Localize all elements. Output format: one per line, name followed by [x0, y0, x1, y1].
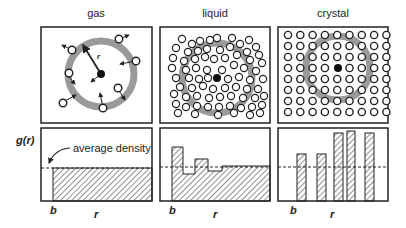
- liquid-particle-panel: [160, 27, 270, 123]
- r-label-liquid: r: [213, 208, 218, 220]
- reference-particle-icon: [213, 74, 221, 82]
- b-label-liquid: b: [169, 204, 176, 216]
- panel-title-gas: gas: [87, 7, 105, 19]
- b-label-crystal: b: [290, 204, 297, 216]
- peak-bar: [317, 154, 326, 201]
- y-axis-label: g(r): [15, 134, 35, 146]
- reference-particle-icon: [97, 70, 105, 78]
- panel-title-liquid: liquid: [202, 7, 228, 19]
- gas-rdf-chart: average density: [41, 128, 152, 201]
- gas-particle-panel: r: [41, 27, 152, 123]
- peak-bar: [347, 131, 355, 201]
- peak-bar: [297, 154, 306, 201]
- rdf-diagram: gas liquid crystal r: [0, 0, 406, 228]
- r-label-crystal: r: [330, 208, 335, 220]
- rdf-area: [53, 168, 152, 201]
- crystal-rdf-chart: [278, 128, 388, 201]
- average-density-label: average density: [73, 142, 151, 154]
- crystal-particle-panel: [278, 27, 390, 123]
- b-label-gas: b: [50, 204, 57, 216]
- liquid-rdf-chart: [160, 128, 270, 201]
- r-label-gas: r: [94, 208, 99, 220]
- reference-particle-icon: [334, 64, 342, 72]
- panel-title-crystal: crystal: [317, 7, 349, 19]
